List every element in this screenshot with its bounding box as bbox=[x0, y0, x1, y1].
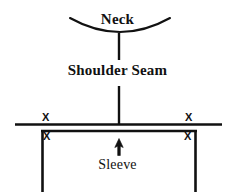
x-mark-top-left: X bbox=[42, 112, 49, 123]
x-mark-top-right: X bbox=[185, 112, 192, 123]
arrow-up-icon bbox=[115, 139, 123, 156]
garment-diagram: Neck Shoulder Seam Sleeve X X X X bbox=[0, 0, 235, 192]
sleeve-label: Sleeve bbox=[0, 158, 235, 172]
x-mark-inner-right: X bbox=[184, 131, 191, 142]
shoulder-seam-label: Shoulder Seam bbox=[0, 63, 235, 78]
x-mark-inner-left: X bbox=[43, 131, 50, 142]
neck-label: Neck bbox=[0, 12, 235, 27]
